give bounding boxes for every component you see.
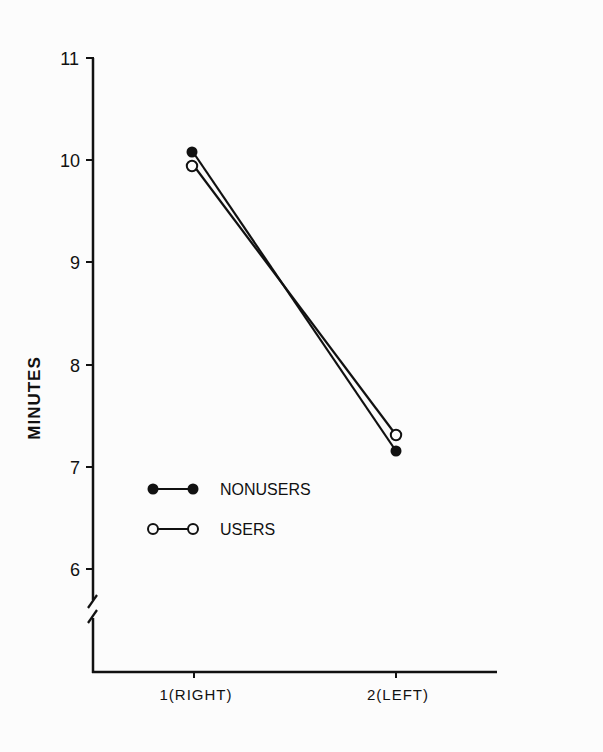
y-axis: 11 10 9 8 7 6 MINUTES xyxy=(25,49,97,673)
legend-item-users: USERS xyxy=(148,521,275,538)
series-users xyxy=(187,161,401,440)
y-tick-label: 8 xyxy=(70,356,80,376)
data-point-nonusers-right xyxy=(187,147,198,158)
legend: NONUSERS USERS xyxy=(148,481,311,538)
legend-label: NONUSERS xyxy=(220,481,311,498)
filled-circle-icon xyxy=(148,484,159,495)
y-tick-label: 7 xyxy=(70,458,80,478)
x-tick-label: 1(RIGHT) xyxy=(160,686,233,703)
line-chart: 11 10 9 8 7 6 MINUTES 1(RIGHT) 2(LEFT) N… xyxy=(0,0,603,752)
legend-item-nonusers: NONUSERS xyxy=(148,481,311,498)
data-point-nonusers-left xyxy=(391,446,402,457)
y-axis-title: MINUTES xyxy=(25,356,44,440)
y-tick-label: 10 xyxy=(60,151,80,171)
y-tick-label: 6 xyxy=(70,560,80,580)
data-point-users-left xyxy=(391,430,401,440)
data-point-users-right xyxy=(187,161,197,171)
y-tick-label: 11 xyxy=(60,49,79,69)
series-nonusers xyxy=(187,147,402,457)
legend-label: USERS xyxy=(220,521,275,538)
open-circle-icon xyxy=(148,524,158,534)
y-tick-label: 9 xyxy=(70,253,80,273)
filled-circle-icon xyxy=(188,484,199,495)
x-axis: 1(RIGHT) 2(LEFT) xyxy=(92,672,497,703)
x-tick-label: 2(LEFT) xyxy=(367,686,429,703)
open-circle-icon xyxy=(188,524,198,534)
